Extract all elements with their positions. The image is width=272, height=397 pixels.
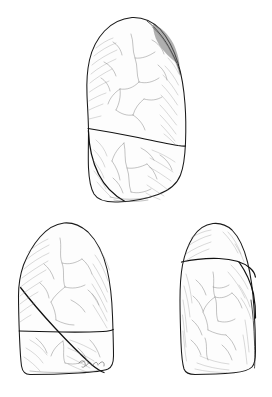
figure-top-artifact xyxy=(87,17,186,202)
artifact-drawing-canvas xyxy=(0,0,272,397)
illustration-plate: Stone artifact illustration plate upper … xyxy=(0,0,272,397)
